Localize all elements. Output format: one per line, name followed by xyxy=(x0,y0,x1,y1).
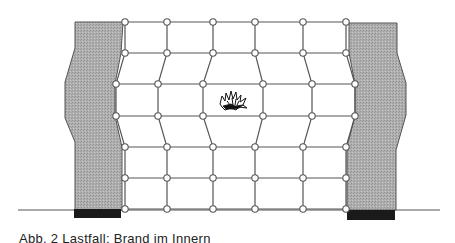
grid-node xyxy=(164,144,170,150)
grid-node xyxy=(260,81,266,87)
grid-node xyxy=(155,81,161,87)
grid-node xyxy=(200,113,206,119)
grid-node xyxy=(155,113,161,119)
grid-node xyxy=(343,50,349,56)
grid-node xyxy=(300,144,306,150)
grid-node xyxy=(252,175,258,181)
grid-node xyxy=(113,113,119,119)
grid-node xyxy=(164,175,170,181)
grid-node xyxy=(252,19,258,25)
grid-node xyxy=(122,19,128,25)
grid-node xyxy=(164,206,170,212)
grid-node xyxy=(260,113,266,119)
grid-node xyxy=(309,113,315,119)
grid-node xyxy=(309,81,315,87)
grid-node xyxy=(210,144,216,150)
grid-node xyxy=(252,206,258,212)
grid-node xyxy=(343,206,349,212)
explosion-icon xyxy=(220,91,247,110)
grid-node xyxy=(343,19,349,25)
structural-diagram xyxy=(0,0,455,243)
right-foundation xyxy=(347,210,395,220)
grid-node xyxy=(164,50,170,56)
grid-node xyxy=(122,144,128,150)
grid-node xyxy=(164,19,170,25)
grid-node xyxy=(210,19,216,25)
grid-node xyxy=(122,206,128,212)
grid-node xyxy=(210,175,216,181)
grid-node xyxy=(200,81,206,87)
grid-node xyxy=(343,144,349,150)
grid-node xyxy=(252,144,258,150)
grid-node xyxy=(113,81,119,87)
grid-node xyxy=(122,50,128,56)
grid-node xyxy=(343,175,349,181)
grid-node xyxy=(300,206,306,212)
grid-node xyxy=(210,50,216,56)
grid-node xyxy=(210,206,216,212)
grid-node xyxy=(122,175,128,181)
grid-node xyxy=(300,19,306,25)
grid-node xyxy=(300,175,306,181)
grid-node xyxy=(352,81,358,87)
left-foundation xyxy=(74,209,121,218)
grid-node xyxy=(252,50,258,56)
grid-node xyxy=(300,50,306,56)
figure-caption: Abb. 2 Lastfall: Brand im Innern xyxy=(19,231,211,243)
grid-lines xyxy=(116,22,355,209)
grid-node xyxy=(352,113,358,119)
